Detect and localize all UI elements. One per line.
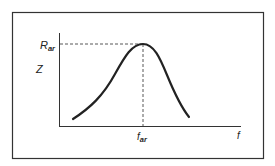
diagram-canvas: Rar Z far f: [0, 0, 275, 166]
x-axis-label: f: [237, 130, 241, 141]
resonance-diagram: Rar Z far f: [0, 0, 275, 166]
peak-value-label: Rar: [40, 39, 56, 53]
peak-freq-label: far: [137, 131, 148, 144]
y-axis-label: Z: [35, 63, 44, 75]
impedance-curve: [73, 44, 189, 119]
